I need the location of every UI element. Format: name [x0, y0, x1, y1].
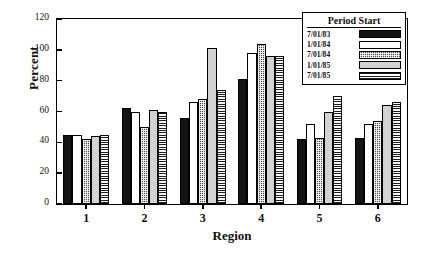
- legend-item-label: 7/01/83: [307, 30, 330, 39]
- legend-swatch-solid-black: [359, 30, 401, 38]
- bar-region-3-series-3: [207, 48, 216, 204]
- legend-swatch-white-open: [359, 41, 401, 49]
- x-tick-label: 2: [131, 211, 159, 226]
- x-tick-mark: [377, 204, 378, 209]
- x-tick-mark: [144, 204, 145, 209]
- legend-rows: 7/01/831/01/847/01/841/01/857/01/85: [307, 29, 401, 81]
- legend-title: Period Start: [307, 15, 401, 28]
- bar-region-2-series-3: [149, 110, 158, 204]
- y-tick-label: 100: [35, 43, 49, 53]
- legend-item-7/01/85: 7/01/85: [307, 71, 401, 81]
- legend-item-1/01/85: 1/01/85: [307, 60, 401, 70]
- legend-item-label: 1/01/85: [307, 61, 330, 70]
- bar-region-2-series-4: [158, 112, 167, 205]
- bar-region-1-series-0: [63, 135, 72, 204]
- y-tick-label: 40: [40, 135, 50, 145]
- x-axis-title: Region: [56, 228, 408, 244]
- legend-item-label: 7/01/84: [307, 50, 330, 59]
- bar-region-4-series-4: [275, 56, 284, 204]
- x-tick-label: 3: [189, 211, 217, 226]
- legend-item-7/01/83: 7/01/83: [307, 29, 401, 39]
- y-tick-label: 20: [40, 166, 50, 176]
- bar-region-2-series-0: [122, 108, 131, 204]
- bar-region-4-series-3: [266, 56, 275, 204]
- legend-item-7/01/84: 7/01/84: [307, 50, 401, 60]
- legend: Period Start 7/01/831/01/847/01/841/01/8…: [302, 12, 406, 85]
- bar-region-5-series-1: [306, 124, 315, 204]
- x-tick-label: 4: [247, 211, 275, 226]
- bar-region-6-series-3: [382, 105, 391, 204]
- bar-region-6-series-4: [392, 102, 401, 204]
- bar-region-1-series-3: [91, 136, 100, 204]
- y-tick-mark: [57, 80, 62, 81]
- bar-region-6-series-0: [355, 138, 364, 204]
- bar-region-2-series-2: [140, 127, 149, 204]
- x-tick-mark: [319, 204, 320, 209]
- bar-region-3-series-4: [217, 90, 226, 204]
- x-tick-mark: [202, 204, 203, 209]
- x-tick-label: 1: [72, 211, 100, 226]
- legend-item-label: 7/01/85: [307, 71, 330, 80]
- bar-region-4-series-0: [238, 79, 247, 204]
- y-tick-mark: [57, 172, 62, 173]
- bar-region-6-series-1: [364, 124, 373, 204]
- y-tick-label: 120: [35, 12, 49, 22]
- y-tick-mark: [57, 18, 62, 19]
- x-tick-label: 5: [306, 211, 334, 226]
- bar-region-3-series-2: [198, 99, 207, 204]
- bar-region-4-series-2: [257, 44, 266, 204]
- y-tick-mark: [57, 142, 62, 143]
- x-tick-label: 6: [364, 211, 392, 226]
- bar-region-1-series-1: [72, 135, 81, 204]
- legend-item-1/01/84: 1/01/84: [307, 39, 401, 49]
- legend-item-label: 1/01/84: [307, 40, 330, 49]
- x-tick-mark: [260, 204, 261, 209]
- bar-region-2-series-1: [131, 112, 140, 205]
- y-tick-label: 0: [44, 197, 49, 207]
- bar-region-1-series-4: [100, 135, 109, 204]
- x-tick-mark: [85, 204, 86, 209]
- y-tick-mark: [57, 49, 62, 50]
- bar-region-5-series-3: [324, 112, 333, 205]
- y-tick-mark: [57, 111, 62, 112]
- legend-swatch-horizontal-stripe: [359, 72, 401, 80]
- bar-region-6-series-2: [373, 121, 382, 204]
- bar-region-4-series-1: [247, 53, 256, 204]
- bar-chart: Percent 020406080100120123456 Region Per…: [0, 0, 422, 255]
- legend-swatch-light-gray: [359, 61, 401, 69]
- legend-swatch-dark-checkered: [359, 51, 401, 59]
- y-tick-label: 60: [40, 105, 50, 115]
- bar-region-1-series-2: [82, 139, 91, 204]
- y-tick-mark: [57, 203, 62, 204]
- bar-region-3-series-1: [189, 102, 198, 204]
- bar-region-3-series-0: [180, 118, 189, 204]
- bar-region-5-series-2: [315, 138, 324, 204]
- bar-region-5-series-0: [297, 139, 306, 204]
- y-tick-label: 80: [40, 74, 50, 84]
- bar-region-5-series-4: [333, 96, 342, 204]
